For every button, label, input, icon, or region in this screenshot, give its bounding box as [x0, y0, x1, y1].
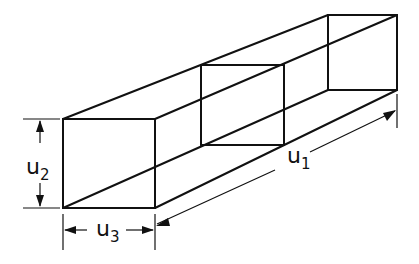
- middle-section: [201, 65, 284, 145]
- u2-dimension: u2: [23, 119, 60, 208]
- u2-label: u2: [26, 154, 50, 184]
- front-face: [63, 119, 155, 208]
- arrow-left-icon: [64, 226, 76, 234]
- back-face: [328, 15, 397, 90]
- arrow-right-icon: [142, 226, 154, 234]
- u3-dimension: u3: [63, 214, 155, 250]
- u3-label: u3: [96, 216, 120, 246]
- arrow-left-down-icon: [156, 218, 170, 226]
- u1-label: u1: [287, 143, 311, 173]
- arrow-down-icon: [36, 195, 44, 207]
- arrow-right-up-icon: [383, 110, 396, 121]
- arrow-up-icon: [36, 120, 44, 132]
- prism-diagram: u2 u3 u1: [0, 0, 419, 264]
- longitudinal-edges: [63, 15, 397, 208]
